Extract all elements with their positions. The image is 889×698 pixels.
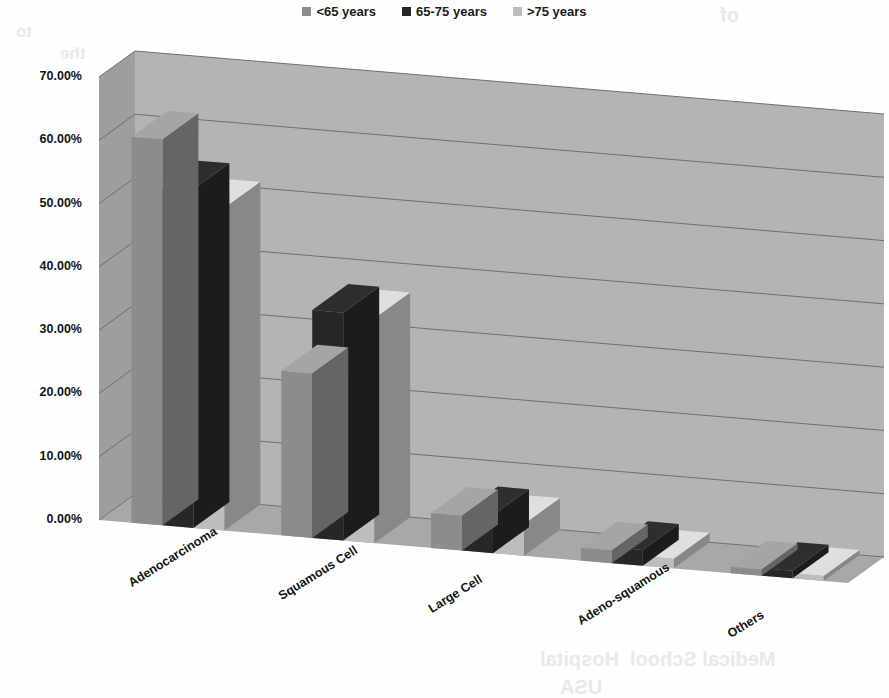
- y-axis-tick-label: 40.00%: [4, 259, 82, 273]
- y-axis-tick-label: 20.00%: [4, 385, 82, 399]
- y-axis-tick-label: 30.00%: [4, 322, 82, 336]
- y-axis: 70.00%60.00%50.00%40.00%30.00%20.00%10.0…: [0, 0, 82, 560]
- y-axis-tick-label: 0.00%: [4, 512, 82, 526]
- y-axis-tick-label: 50.00%: [4, 196, 82, 210]
- plot-left-wall: [99, 51, 135, 520]
- y-axis-tick-label: 60.00%: [4, 132, 82, 146]
- bar[interactable]: [281, 345, 348, 538]
- bar[interactable]: [131, 111, 198, 526]
- y-axis-tick-label: 70.00%: [4, 69, 82, 83]
- y-axis-tick-label: 10.00%: [4, 449, 82, 463]
